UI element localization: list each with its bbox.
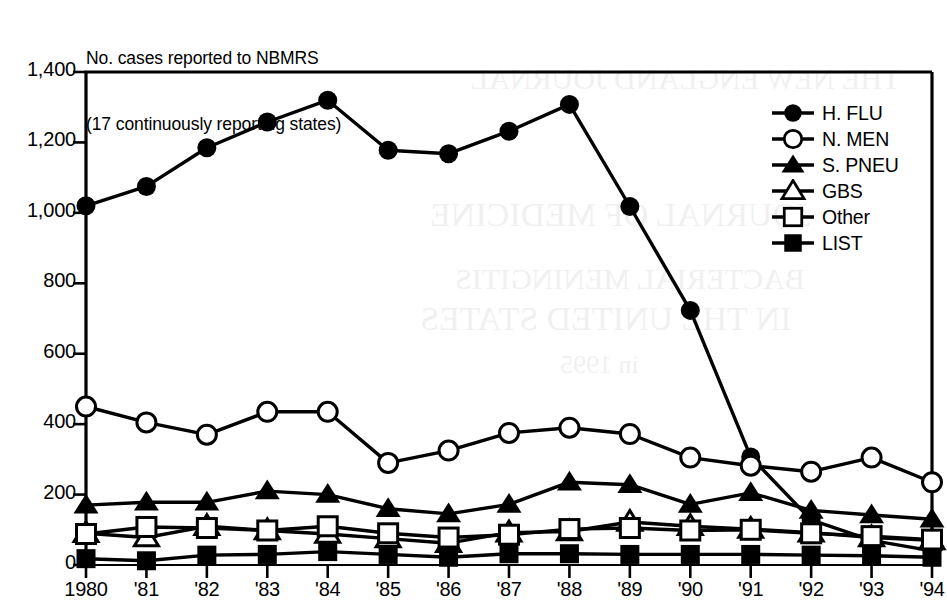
data-point-marker	[862, 546, 881, 565]
data-point-marker	[681, 448, 700, 467]
data-point-marker	[77, 196, 96, 215]
legend-item-label: S. PNEU	[815, 154, 899, 177]
x-axis-tick-label: '89	[617, 578, 642, 601]
data-point-marker	[560, 95, 579, 114]
legend-item-s-pneu[interactable]: S. PNEU	[771, 152, 946, 178]
chart-legend: H. FLUN. MENS. PNEUGBSOtherLIST	[771, 100, 946, 256]
x-axis-tick-label: '94	[919, 578, 944, 601]
data-point-marker	[137, 551, 156, 570]
data-point-marker	[500, 423, 519, 442]
data-point-marker	[258, 402, 277, 421]
data-point-marker	[738, 481, 763, 501]
x-axis-tick-label: '86	[436, 578, 461, 601]
data-point-marker	[439, 548, 458, 567]
data-point-marker	[318, 517, 337, 536]
data-point-marker	[802, 546, 821, 565]
data-point-marker	[557, 471, 582, 491]
data-point-marker	[923, 548, 942, 567]
data-point-marker	[258, 545, 277, 564]
data-point-marker	[802, 524, 821, 543]
data-point-marker	[923, 530, 942, 549]
legend-item-list[interactable]: LIST	[771, 230, 946, 256]
data-point-marker	[862, 448, 881, 467]
data-point-marker	[137, 517, 156, 536]
filled-circle-marker-icon	[771, 101, 815, 125]
legend-item-label: Other	[815, 206, 870, 229]
data-point-marker	[500, 122, 519, 141]
data-point-marker	[379, 524, 398, 543]
data-point-marker	[560, 544, 579, 563]
data-point-marker	[77, 525, 96, 544]
data-point-marker	[500, 525, 519, 544]
data-point-marker	[197, 519, 216, 538]
data-point-marker	[439, 441, 458, 460]
legend-item-h-flu[interactable]: H. FLU	[771, 100, 946, 126]
x-axis-tick-label: '87	[496, 578, 521, 601]
legend-item-label: H. FLU	[815, 102, 883, 125]
x-axis-tick-label: 1980	[64, 578, 107, 601]
data-point-marker	[560, 418, 579, 437]
data-point-marker	[379, 545, 398, 564]
data-point-marker	[77, 549, 96, 568]
x-axis-tick-labels: 1980'81'82'83'84'85'86'87'88'89'90'91'92…	[0, 574, 947, 607]
x-axis-tick-label: '85	[376, 578, 401, 601]
data-point-marker	[620, 545, 639, 564]
series-n-men	[77, 397, 942, 492]
data-point-marker	[439, 144, 458, 163]
data-point-marker	[560, 520, 579, 539]
data-point-marker	[681, 521, 700, 540]
data-point-marker	[681, 301, 700, 320]
x-axis-tick-label: '91	[738, 578, 763, 601]
filled-triangle-marker-icon	[771, 153, 815, 177]
data-point-marker	[137, 413, 156, 432]
data-point-marker	[681, 545, 700, 564]
data-point-marker	[439, 528, 458, 547]
data-point-marker	[741, 520, 760, 539]
open-square-marker-icon	[771, 205, 815, 229]
data-point-marker	[318, 402, 337, 421]
legend-item-label: LIST	[815, 232, 862, 255]
data-point-marker	[620, 425, 639, 444]
legend-item-label: N. MEN	[815, 128, 889, 151]
x-axis-tick-label: '92	[799, 578, 824, 601]
chart-figure: THE NEW ENGLAND JOURNALJOURNAL OF MEDICI…	[0, 0, 947, 607]
legend-item-gbs[interactable]: GBS	[771, 178, 946, 204]
data-point-marker	[258, 521, 277, 540]
x-axis-tick-label: '84	[315, 578, 340, 601]
plot-area	[0, 0, 947, 607]
legend-item-label: GBS	[815, 180, 863, 203]
data-point-marker	[197, 425, 216, 444]
data-point-marker	[862, 527, 881, 546]
data-point-marker	[379, 453, 398, 472]
data-point-marker	[923, 473, 942, 492]
data-point-marker	[802, 462, 821, 481]
x-axis-tick-label: '93	[859, 578, 884, 601]
data-point-marker	[197, 546, 216, 565]
legend-item-other[interactable]: Other	[771, 204, 946, 230]
data-point-marker	[258, 113, 277, 132]
x-axis-tick-label: '81	[134, 578, 159, 601]
open-triangle-marker-icon	[771, 179, 815, 203]
data-point-marker	[500, 544, 519, 563]
data-point-marker	[255, 480, 280, 500]
data-point-marker	[77, 397, 96, 416]
data-point-marker	[318, 91, 337, 110]
legend-item-n-men[interactable]: N. MEN	[771, 126, 946, 152]
open-circle-marker-icon	[771, 127, 815, 151]
data-point-marker	[620, 519, 639, 538]
data-point-marker	[741, 545, 760, 564]
data-point-marker	[379, 141, 398, 160]
x-axis-tick-label: '88	[557, 578, 582, 601]
filled-square-marker-icon	[771, 231, 815, 255]
x-axis-tick-label: '83	[255, 578, 280, 601]
x-axis-tick-label: '82	[194, 578, 219, 601]
data-point-marker	[741, 456, 760, 475]
data-point-marker	[620, 197, 639, 216]
data-point-marker	[318, 542, 337, 561]
data-point-marker	[197, 138, 216, 157]
data-point-marker	[137, 177, 156, 196]
x-axis-tick-label: '90	[678, 578, 703, 601]
